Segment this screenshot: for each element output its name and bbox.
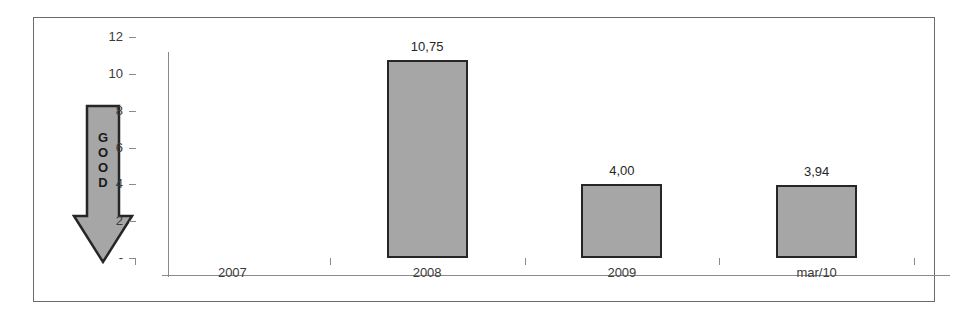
x-axis-tick <box>719 258 720 265</box>
bar-value-label: 10,75 <box>367 39 487 54</box>
category-label: 2007 <box>172 265 292 280</box>
bar[interactable] <box>581 184 662 258</box>
y-axis-label: 8 <box>79 103 123 118</box>
y-axis-line <box>168 52 169 277</box>
y-axis-label: - <box>79 250 123 265</box>
x-axis-tick <box>330 258 331 265</box>
y-axis-label: 12 <box>79 29 123 44</box>
y-axis-tick <box>129 221 136 222</box>
category-label: 2008 <box>367 265 487 280</box>
y-axis-tick <box>129 148 136 149</box>
y-axis-tick <box>129 184 136 185</box>
category-label: 2009 <box>562 265 682 280</box>
bar[interactable] <box>387 60 468 258</box>
category-label: mar/10 <box>757 265 877 280</box>
bar-value-label: 3,94 <box>757 164 877 179</box>
y-axis-label: 4 <box>79 176 123 191</box>
y-axis-label: 10 <box>79 66 123 81</box>
y-axis-tick <box>129 74 136 75</box>
y-axis-label: 6 <box>79 140 123 155</box>
x-axis-tick <box>525 258 526 265</box>
y-axis-tick <box>129 111 136 112</box>
x-axis-tick <box>914 258 915 265</box>
y-axis-tick <box>129 37 136 38</box>
bar-value-label: 4,00 <box>562 163 682 178</box>
bar[interactable] <box>776 185 857 258</box>
chart-frame: G O O D -24681012 10,754,003,94 20072008… <box>33 17 935 302</box>
y-axis-label: 2 <box>79 213 123 228</box>
x-axis-tick <box>135 258 136 265</box>
